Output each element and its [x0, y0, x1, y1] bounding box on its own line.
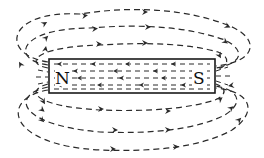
north-pole-label: N [55, 68, 70, 88]
field-line-lower-1 [18, 88, 248, 150]
bar-magnet: N S [49, 59, 215, 93]
field-line-upper-1 [17, 10, 250, 66]
south-pole-label: S [193, 68, 205, 88]
bar-magnet-field-diagram: N S [0, 0, 264, 158]
